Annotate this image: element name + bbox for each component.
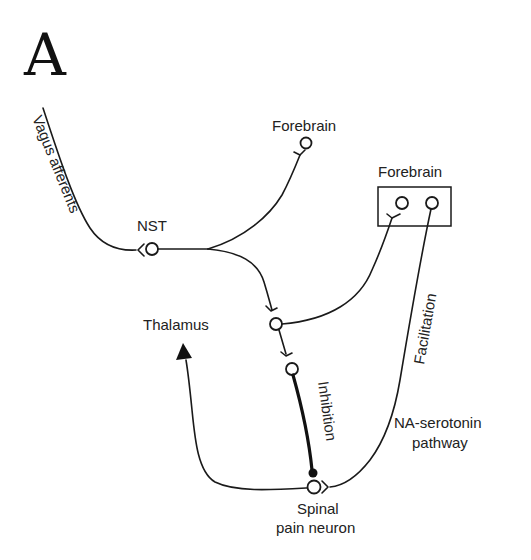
- spinal-pain-neuron: [308, 481, 321, 494]
- vagus-afferents-label: Vagus afferents: [29, 113, 84, 216]
- relay-upper-neuron: [270, 318, 282, 330]
- panel-label: A: [23, 21, 67, 89]
- forebrain-box-left-neuron: [396, 197, 408, 209]
- thalamus-label: Thalamus: [143, 316, 209, 333]
- forebrain-box: [378, 187, 451, 226]
- nst-neuron: [146, 243, 158, 255]
- na-serotonin-label-line2: pathway: [412, 434, 468, 451]
- forebrain-top-neuron: [301, 138, 312, 149]
- na-serotonin-label-line1: NA-serotonin: [394, 414, 482, 431]
- spinal-to-thalamus-path: [186, 360, 307, 490]
- branch-to-relay: [208, 249, 272, 310]
- nst-label: NST: [137, 217, 167, 234]
- facilitation-label: Facilitation: [410, 292, 439, 366]
- spinal-facilitation-synapse-icon: [322, 481, 328, 493]
- inhibitory-terminal-icon: [309, 469, 318, 478]
- relay-connector: [279, 330, 286, 354]
- forebrain-box-synapse-icon: [387, 214, 400, 218]
- spinal-neuron-label-line2: pain neuron: [276, 519, 355, 536]
- forebrain-top-label: Forebrain: [272, 117, 336, 134]
- nst-synapse-icon: [138, 244, 144, 256]
- relay-to-forebrain-box: [282, 218, 392, 324]
- relay-lower-neuron: [286, 363, 298, 375]
- thalamus-arrowhead-icon: [176, 343, 192, 360]
- forebrain-top-synapse-icon: [294, 150, 305, 155]
- inhibition-pathway: [293, 375, 312, 470]
- spinal-neuron-label-line1: Spinal: [297, 500, 339, 517]
- branch-to-forebrain-top: [208, 155, 300, 249]
- forebrain-box-right-neuron: [426, 197, 438, 209]
- forebrain-box-label: Forebrain: [378, 163, 442, 180]
- inhibition-label: Inhibition: [315, 380, 340, 442]
- neural-pathway-diagram: A Vagus afferents NST Forebrain Forebrai…: [0, 0, 531, 560]
